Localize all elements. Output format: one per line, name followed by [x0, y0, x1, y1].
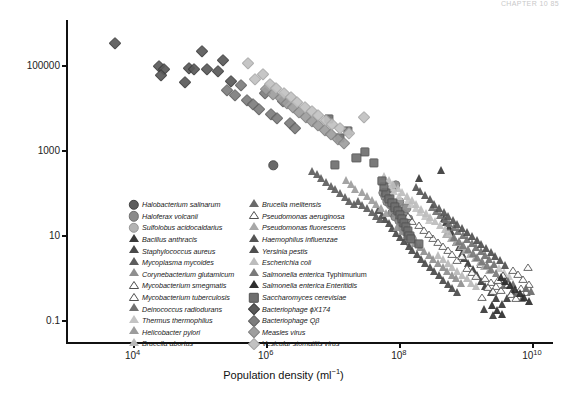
triangle-marker-icon [248, 211, 259, 222]
y-tick [62, 320, 66, 322]
legend-item-label: Escherichia coli [262, 258, 311, 267]
diamond-marker-icon [248, 338, 259, 349]
legend-item[interactable]: Vesicular stomatitis virus [248, 338, 373, 350]
triangle-marker-icon [128, 315, 139, 326]
legend-item[interactable]: Helicobacter pylori [128, 327, 248, 339]
legend-item[interactable]: Measles virus [248, 327, 373, 339]
legend-item[interactable]: Haloferax volcanii [128, 211, 248, 223]
circle-marker-icon [128, 199, 139, 210]
x-tick-label: 106 [258, 350, 273, 361]
diamond-marker-icon [248, 327, 259, 338]
y-tick-label: 1000 [38, 144, 60, 155]
data-point [196, 45, 208, 57]
data-point [377, 177, 386, 186]
legend-item[interactable]: Salmonella enterica Typhimurium [248, 269, 373, 281]
legend-item[interactable]: Mycobacterium tuberculosis [128, 292, 248, 304]
legend-item[interactable]: Bacteriophage ϕX174 [248, 303, 373, 315]
diamond-marker-icon [248, 304, 259, 315]
data-point [217, 54, 229, 66]
legend-item-label: Mycobacterium smegmatis [142, 281, 226, 290]
legend-column-2: Brucella melitensisPseudomonas aeruginos… [248, 199, 373, 350]
legend-item-label: Brucella melitensis [262, 200, 321, 209]
legend-item-label: Bacteriophage Qβ [262, 316, 319, 325]
circle-marker-icon [128, 222, 139, 233]
legend-item[interactable]: Deinococcus radiodurans [128, 303, 248, 315]
legend-item[interactable]: Saccharomyces cerevisiae [248, 292, 373, 304]
y-tick [62, 65, 66, 67]
legend-item-label: Yersinia pestis [262, 247, 308, 256]
triangle-marker-icon [248, 280, 259, 291]
legend-item[interactable]: Brucella abortus [128, 338, 248, 350]
mutation-rate-vs-population-density-figure: CHAPTER 10 85 Halobacterium salinarumHal… [0, 0, 567, 394]
data-point [414, 240, 423, 249]
legend-item-label: Helicobacter pylori [142, 328, 200, 337]
triangle-marker-icon [128, 234, 139, 245]
x-tick-label: 104 [125, 350, 140, 361]
data-point [453, 288, 461, 296]
legend-item-label: Salmonella enterica Enteritidis [262, 281, 357, 290]
diamond-marker-icon [248, 315, 259, 326]
square-marker-icon [248, 292, 259, 303]
triangle-marker-icon [248, 234, 259, 245]
triangle-marker-icon [128, 269, 139, 280]
data-point [109, 37, 121, 49]
legend-item[interactable]: Mycobacterium smegmatis [128, 280, 248, 292]
legend-item[interactable]: Escherichia coli [248, 257, 373, 269]
legend-item-label: Pseudomonas fluorescens [262, 223, 346, 232]
data-point [477, 287, 487, 305]
data-point [342, 176, 350, 184]
data-point [424, 225, 434, 243]
y-tick-label: 10 [49, 229, 60, 240]
data-point [330, 161, 339, 170]
legend-item[interactable]: Staphylococcus aureus [128, 245, 248, 257]
legend-item[interactable]: Corynebacterium glutamicum [128, 269, 248, 281]
x-tick-label: 1010 [522, 350, 541, 361]
chart-legend: Halobacterium salinarumHaloferax volcani… [128, 199, 373, 350]
data-point [498, 310, 506, 318]
legend-item-label: Staphylococcus aureus [142, 247, 215, 256]
legend-item[interactable]: Halobacterium salinarum [128, 199, 248, 211]
legend-item-label: Haloferax volcanii [142, 212, 198, 221]
data-point [360, 147, 369, 156]
legend-item-label: Mycobacterium tuberculosis [142, 293, 230, 302]
legend-item[interactable]: Salmonella enterica Enteritidis [248, 280, 373, 292]
legend-item-label: Corynebacterium glutamicum [142, 270, 234, 279]
triangle-marker-icon [128, 327, 139, 338]
data-point [179, 76, 191, 88]
running-head: CHAPTER 10 85 [501, 0, 559, 7]
x-axis-title-text: Population density (ml−1) [223, 369, 343, 381]
legend-column-1: Halobacterium salinarumHaloferax volcani… [128, 199, 248, 350]
data-point [523, 257, 533, 275]
x-tick-label: 108 [391, 350, 406, 361]
legend-item[interactable]: Brucella melitensis [248, 199, 373, 211]
legend-item-label: Vesicular stomatitis virus [262, 339, 340, 348]
legend-item[interactable]: Sulfolobus acidocaldarius [128, 222, 248, 234]
legend-item[interactable]: Thermus thermophilus [128, 315, 248, 327]
data-point [358, 111, 370, 123]
data-point [269, 160, 278, 169]
y-tick [62, 150, 66, 152]
legend-item[interactable]: Bacillus anthracis [128, 234, 248, 246]
legend-item-label: Pseudomonas aeruginosa [262, 212, 344, 221]
legend-item-label: Bacteriophage ϕX174 [262, 305, 330, 314]
y-tick-label: 100000 [27, 59, 60, 70]
triangle-marker-icon [128, 292, 139, 303]
triangle-marker-icon [128, 246, 139, 257]
data-point [382, 209, 390, 217]
legend-item-label: Deinococcus radiodurans [142, 305, 222, 314]
legend-item[interactable]: Bacteriophage Qβ [248, 315, 373, 327]
plot-area: Halobacterium salinarumHaloferax volcani… [66, 22, 552, 342]
legend-item[interactable]: Haemophilus influenzae [248, 234, 373, 246]
data-point [501, 261, 509, 269]
legend-item[interactable]: Mycoplasma mycoides [128, 257, 248, 269]
legend-item[interactable]: Pseudomonas fluorescens [248, 222, 373, 234]
x-axis-title: Population density (ml−1) [0, 369, 567, 381]
legend-item[interactable]: Pseudomonas aeruginosa [248, 211, 373, 223]
legend-item-label: Sulfolobus acidocaldarius [142, 223, 222, 232]
legend-item-label: Bacillus anthracis [142, 235, 197, 244]
legend-item[interactable]: Yersinia pestis [248, 245, 373, 257]
triangle-marker-icon [128, 280, 139, 291]
y-tick-label: 0.1 [46, 314, 60, 325]
legend-item-label: Salmonella enterica Typhimurium [262, 270, 367, 279]
data-point [437, 166, 445, 174]
